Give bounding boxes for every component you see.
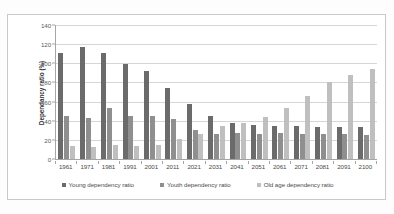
legend-item[interactable]: Youth dependency ratio — [160, 181, 231, 188]
bar-group — [56, 25, 77, 159]
x-axis-tick-label: 1961 — [59, 163, 72, 170]
y-axis-tick-label: 40 — [44, 117, 51, 124]
bar-group — [227, 25, 248, 159]
bar — [113, 145, 118, 159]
bar — [86, 118, 91, 159]
bar — [128, 116, 133, 159]
bar-group — [356, 25, 377, 159]
bar — [144, 71, 149, 159]
bar — [80, 47, 85, 159]
bar — [327, 82, 332, 159]
bar-group — [120, 25, 141, 159]
x-axis-tick-mark — [355, 161, 356, 164]
y-axis-tick-label: 120 — [41, 41, 51, 48]
x-axis-tick-mark — [76, 161, 77, 164]
bar-group — [99, 25, 120, 159]
legend-label: Youth dependency ratio — [167, 181, 231, 188]
bar-group — [142, 25, 163, 159]
bar — [156, 145, 161, 159]
x-axis-tick-mark — [333, 161, 334, 164]
bar — [64, 116, 69, 159]
bar — [177, 139, 182, 159]
bar — [187, 104, 192, 160]
bar — [107, 108, 112, 159]
bar — [251, 125, 256, 159]
legend-label: Young dependency ratio — [69, 181, 134, 188]
bar-group — [334, 25, 355, 159]
bar — [165, 88, 170, 159]
x-axis-tick-mark — [226, 161, 227, 164]
bar — [263, 117, 268, 159]
bar — [321, 134, 326, 159]
bar-group — [249, 25, 270, 159]
legend-swatch-icon — [62, 183, 66, 187]
x-axis-tick-label: 2021 — [187, 163, 200, 170]
x-axis-tick-mark — [162, 161, 163, 164]
x-axis-tick-mark — [205, 161, 206, 164]
x-axis-tick-label: 1991 — [123, 163, 136, 170]
bar — [337, 127, 342, 159]
x-axis-tick-label: 1971 — [80, 163, 93, 170]
x-axis-tick-label: 2041 — [230, 163, 243, 170]
x-axis-tick-label: 2001 — [145, 163, 158, 170]
x-axis: 1961197119811991200120112021203120412051… — [55, 161, 377, 175]
x-axis-tick-label: 2091 — [337, 163, 350, 170]
bar — [272, 126, 277, 160]
legend-item[interactable]: Young dependency ratio — [62, 181, 134, 188]
plot-area — [55, 25, 377, 160]
y-axis-tick-label: 60 — [44, 98, 51, 105]
bar — [257, 134, 262, 159]
x-axis-tick-mark — [269, 161, 270, 164]
bar — [134, 146, 139, 159]
bar — [364, 135, 369, 159]
bar — [284, 108, 289, 159]
bar — [370, 69, 375, 159]
bar — [214, 134, 219, 159]
legend-item[interactable]: Old age dependency ratio — [257, 181, 334, 188]
x-axis-tick-mark — [376, 161, 377, 164]
bar-group — [184, 25, 205, 159]
chart-screenshot: Dependancy ratio (%) 020406080100120140 … — [0, 0, 394, 214]
x-axis-tick-mark — [183, 161, 184, 164]
bar-group — [313, 25, 334, 159]
x-axis-tick-label: 2061 — [273, 163, 286, 170]
x-axis-tick-label: 2051 — [252, 163, 265, 170]
x-axis-tick-mark — [119, 161, 120, 164]
bar-group — [163, 25, 184, 159]
legend-swatch-icon — [257, 183, 261, 187]
bar — [58, 53, 63, 159]
bar — [70, 146, 75, 159]
x-axis-tick-mark — [98, 161, 99, 164]
y-axis-tick-label: 0 — [48, 156, 51, 163]
x-axis-tick-label: 2011 — [166, 163, 179, 170]
y-axis-tick-label: 140 — [41, 22, 51, 29]
x-axis-tick-label: 1981 — [102, 163, 115, 170]
bar — [230, 123, 235, 159]
x-axis-tick-label: 2081 — [316, 163, 329, 170]
bar-group — [291, 25, 312, 159]
bar — [358, 127, 363, 159]
chart-frame: Dependancy ratio (%) 020406080100120140 … — [7, 14, 386, 200]
bar — [294, 126, 299, 159]
x-axis-tick-mark — [141, 161, 142, 164]
y-axis-tick-label: 20 — [44, 136, 51, 143]
y-axis-tick-label: 80 — [44, 79, 51, 86]
bar-group — [206, 25, 227, 159]
bar — [315, 127, 320, 159]
bar — [91, 147, 96, 159]
bar — [300, 134, 305, 159]
x-axis-tick-mark — [248, 161, 249, 164]
bar — [348, 75, 353, 159]
x-axis-tick-mark — [312, 161, 313, 164]
bar — [198, 134, 203, 159]
x-axis-tick-mark — [290, 161, 291, 164]
x-axis-tick-label: 2071 — [294, 163, 307, 170]
bar — [305, 96, 310, 159]
chart-legend: Young dependency ratioYouth dependency r… — [8, 181, 387, 188]
bar — [342, 134, 347, 159]
bar-group — [270, 25, 291, 159]
x-axis-tick-mark — [55, 161, 56, 164]
x-axis-tick-label: 2100 — [359, 163, 372, 170]
bar — [123, 64, 128, 159]
bar — [193, 130, 198, 159]
